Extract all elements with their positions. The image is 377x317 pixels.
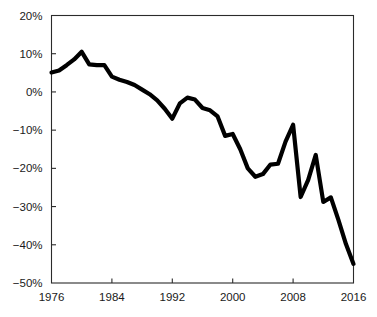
line-chart-plot: 20%10%0%−10%−20%−30%−40%−50% 19761984199… — [0, 0, 377, 317]
x-axis-tick-label: 2008 — [280, 291, 306, 303]
y-axis-tick-labels: 20%10%0%−10%−20%−30%−40%−50% — [13, 10, 43, 290]
chart-container: 20%10%0%−10%−20%−30%−40%−50% 19761984199… — [0, 0, 377, 317]
plot-area-frame — [52, 16, 354, 284]
y-axis-tick-label: 20% — [19, 10, 42, 22]
y-axis-tick-label: −50% — [13, 277, 43, 289]
x-axis-tick-label: 1976 — [39, 291, 65, 303]
y-axis-tick-label: −10% — [13, 124, 43, 136]
x-axis-tick-label: 1984 — [99, 291, 125, 303]
y-axis-tick-label: 10% — [19, 48, 42, 60]
axis-tick-marks — [52, 54, 294, 283]
y-axis-tick-label: −20% — [13, 162, 43, 174]
x-axis-tick-label: 1992 — [160, 291, 186, 303]
y-axis-tick-label: 0% — [26, 86, 43, 98]
x-axis-tick-label: 2000 — [220, 291, 246, 303]
y-axis-tick-label: −40% — [13, 239, 43, 251]
x-axis-tick-labels: 197619841992200020082016 — [39, 291, 367, 303]
x-axis-tick-label: 2016 — [341, 291, 367, 303]
data-series-line — [52, 52, 354, 264]
y-axis-tick-label: −30% — [13, 201, 43, 213]
